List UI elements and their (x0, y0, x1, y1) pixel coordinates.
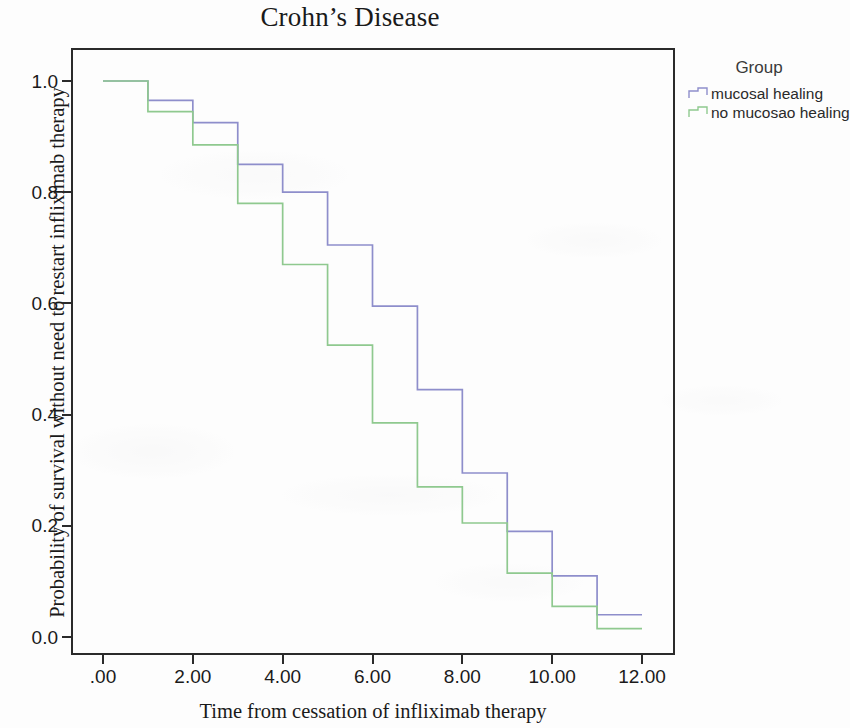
x-tick-label: 8.00 (444, 667, 481, 686)
page-title: Crohn’s Disease (0, 2, 700, 33)
x-tick-mark (372, 655, 374, 664)
x-tick-label: 10.00 (528, 667, 576, 686)
x-tick-label: .00 (90, 667, 116, 686)
x-tick-mark (102, 655, 104, 664)
x-tick-label: 4.00 (264, 667, 301, 686)
y-tick-label: 0.2 (32, 516, 62, 535)
y-tick-mark (62, 80, 71, 82)
y-tick-label: 0.4 (32, 405, 62, 424)
legend-label: no mucosao healing (711, 104, 850, 121)
x-tick-label: 2.00 (174, 667, 211, 686)
legend-item-mucosal-healing[interactable]: mucosal healing (688, 85, 846, 102)
series-layer (103, 81, 642, 629)
legend: Group mucosal healingno mucosao healing (688, 58, 846, 123)
legend-label: mucosal healing (711, 85, 823, 102)
y-tick-label: 0.6 (32, 294, 62, 313)
x-tick-mark (551, 655, 553, 664)
legend-swatch-step-icon (688, 87, 708, 100)
y-axis-label: Probability of survival without need to … (46, 53, 69, 653)
x-tick-mark (282, 655, 284, 664)
legend-title: Group (688, 58, 846, 78)
y-tick-label: 0.0 (32, 628, 62, 647)
y-tick-label: 1.0 (32, 72, 62, 91)
legend-swatch-step-icon (688, 106, 708, 119)
x-axis-label: Time from cessation of infliximab therap… (71, 700, 675, 723)
x-tick-mark (641, 655, 643, 664)
legend-entries: mucosal healingno mucosao healing (688, 85, 846, 121)
series-line-no-mucosao-healing (103, 81, 642, 629)
y-tick-mark (62, 525, 71, 527)
legend-item-no-mucosao-healing[interactable]: no mucosao healing (688, 104, 846, 121)
x-tick-mark (461, 655, 463, 664)
x-tick-mark (192, 655, 194, 664)
y-tick-mark (62, 191, 71, 193)
y-tick-mark (62, 636, 71, 638)
y-tick-mark (62, 414, 71, 416)
x-tick-label: 6.00 (354, 667, 391, 686)
x-tick-label: 12.00 (618, 667, 666, 686)
plot-area (71, 48, 675, 655)
y-tick-label: 0.8 (32, 183, 62, 202)
y-tick-mark (62, 302, 71, 304)
